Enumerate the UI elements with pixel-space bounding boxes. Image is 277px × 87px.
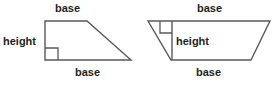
left-bottom-base-label: base [75, 66, 100, 78]
right-trapezoid-shape [148, 21, 270, 60]
left-right-angle-marker [45, 48, 58, 60]
right-bottom-base-label: base [196, 66, 221, 78]
left-trapezoid-shape [45, 21, 131, 60]
right-top-base-label: base [197, 2, 222, 14]
right-right-angle-marker [160, 21, 172, 33]
left-height-label: height [3, 35, 36, 47]
right-trapezoid-outline [148, 21, 270, 60]
left-top-base-label: base [55, 2, 80, 14]
right-height-label: height [176, 35, 209, 47]
trapezoid-figures-svg [0, 0, 277, 87]
trapezoid-diagram: base height base base height base [0, 0, 277, 87]
